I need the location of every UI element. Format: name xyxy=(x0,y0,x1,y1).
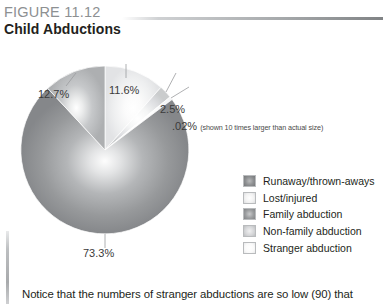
legend-swatch-icon xyxy=(243,225,256,237)
legend-item-label: Family abduction xyxy=(263,208,342,220)
caption-accent-bar xyxy=(6,231,9,304)
figure-caption: Notice that the numbers of stranger abdu… xyxy=(22,288,378,300)
legend-item-runaway-thrown-aways: Runaway/thrown-aways xyxy=(243,173,383,190)
legend-item-non-family-abduction: Non-family abduction xyxy=(243,223,383,240)
pie-value-label-2-5: 2.5% xyxy=(160,103,185,115)
header-rule-divider xyxy=(122,17,383,20)
leader-line-25 xyxy=(166,73,176,92)
legend-item-label: Runaway/thrown-aways xyxy=(263,175,374,187)
pie-value-label-11-6: 11.6% xyxy=(109,84,139,96)
figure-header: FIGURE 11.12 Child Abductions xyxy=(4,4,379,42)
figure-number: FIGURE 11.12 xyxy=(4,4,100,20)
legend-swatch-icon xyxy=(243,175,256,187)
pie-value-002-number: .02% xyxy=(172,120,197,132)
legend-swatch-icon xyxy=(243,208,256,220)
pie-value-label-73-3: 73.3% xyxy=(83,247,114,259)
pie-value-label-12-7: 12.7% xyxy=(38,88,69,100)
legend-item-label: Stranger abduction xyxy=(263,242,352,254)
pie-value-002-note: (shown 10 times larger than actual size) xyxy=(200,123,323,132)
page-title: Child Abductions xyxy=(4,21,121,37)
leader-line-002 xyxy=(171,87,189,98)
chart-legend: Runaway/thrown-aways Lost/injured Family… xyxy=(243,173,383,256)
pie-value-label-002: .02% (shown 10 times larger than actual … xyxy=(172,120,323,132)
legend-item-stranger-abduction: Stranger abduction xyxy=(243,239,383,256)
legend-item-lost-injured: Lost/injured xyxy=(243,190,383,207)
legend-item-label: Non-family abduction xyxy=(263,225,362,237)
legend-item-family-abduction: Family abduction xyxy=(243,206,383,223)
pie-chart: 12.7% 11.6% 2.5% .02% (shown 10 times la… xyxy=(0,42,383,262)
legend-item-label: Lost/injured xyxy=(263,192,317,204)
legend-swatch-icon xyxy=(243,192,256,204)
legend-swatch-icon xyxy=(243,242,256,254)
